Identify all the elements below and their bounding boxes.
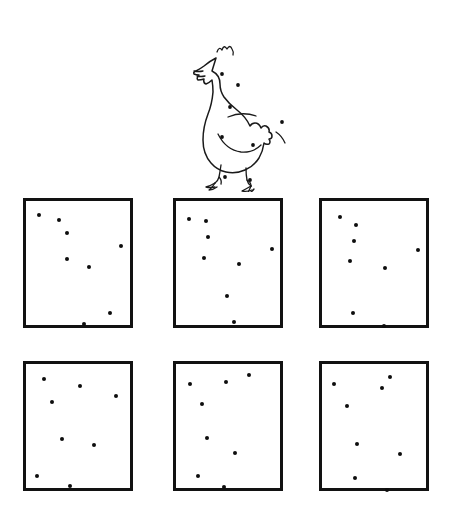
option-dot <box>205 436 210 441</box>
option-dot <box>42 377 47 382</box>
option-dot <box>354 223 359 228</box>
option-dot <box>60 437 65 442</box>
option-dot <box>382 324 387 329</box>
option-box-top-right[interactable] <box>319 198 429 328</box>
option-dot <box>57 218 62 223</box>
chicken-spot <box>248 178 252 182</box>
chicken-spot <box>251 143 255 147</box>
option-dot <box>82 322 87 327</box>
option-dot <box>114 394 119 399</box>
option-box-bottom-right[interactable] <box>319 361 429 491</box>
option-dot <box>345 404 350 409</box>
option-dot <box>119 244 124 249</box>
option-row-bottom <box>0 361 455 498</box>
option-dot <box>35 474 40 479</box>
option-dot <box>222 485 227 490</box>
option-dot <box>232 320 237 325</box>
option-dot <box>247 373 252 378</box>
option-dot <box>200 402 205 407</box>
option-dot <box>383 266 388 271</box>
chicken-spot <box>228 105 232 109</box>
chicken-spot <box>220 72 224 76</box>
option-dot <box>92 443 97 448</box>
option-box-bottom-left[interactable] <box>23 361 133 491</box>
option-dot <box>355 442 360 447</box>
option-dot <box>270 247 275 252</box>
option-dot <box>37 213 42 218</box>
chicken-spot <box>223 175 227 179</box>
worksheet-page <box>0 0 455 526</box>
chicken-spot <box>280 120 284 124</box>
option-grid <box>0 198 455 513</box>
chicken-spot <box>236 83 240 87</box>
option-dot <box>332 382 337 387</box>
option-dot <box>108 311 113 316</box>
option-dot <box>206 235 211 240</box>
option-row-top <box>0 198 455 335</box>
option-dot <box>416 248 421 253</box>
option-dot <box>78 384 83 389</box>
option-dot <box>398 452 403 457</box>
option-dot <box>233 451 238 456</box>
chicken-icon <box>158 22 308 192</box>
option-dot <box>188 382 193 387</box>
option-dot <box>385 488 390 493</box>
option-dot <box>388 375 393 380</box>
option-dot <box>351 311 356 316</box>
option-dot <box>65 257 70 262</box>
option-dot <box>68 484 73 489</box>
option-dot <box>204 219 209 224</box>
option-box-bottom-middle[interactable] <box>173 361 283 491</box>
option-box-top-left[interactable] <box>23 198 133 328</box>
option-dot <box>225 294 230 299</box>
chicken-spot <box>220 135 224 139</box>
option-dot <box>352 239 357 244</box>
option-dot <box>50 400 55 405</box>
option-dot <box>65 231 70 236</box>
option-dot <box>87 265 92 270</box>
option-box-top-middle[interactable] <box>173 198 283 328</box>
chicken-stimulus <box>158 22 308 192</box>
option-dot <box>338 215 343 220</box>
option-dot <box>202 256 207 261</box>
option-dot <box>187 217 192 222</box>
option-dot <box>353 476 358 481</box>
option-dot <box>224 380 229 385</box>
option-dot <box>380 386 385 391</box>
option-dot <box>196 474 201 479</box>
option-dot <box>237 262 242 267</box>
option-dot <box>348 259 353 264</box>
